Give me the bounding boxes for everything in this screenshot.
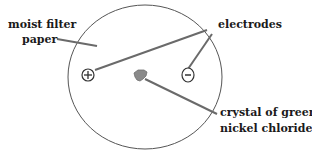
positive-electrode-leader-line bbox=[95, 30, 207, 70]
crystal-leader-line bbox=[145, 79, 217, 114]
filter-paper-label-line1: moist filter bbox=[8, 18, 76, 32]
filter-paper-label-line2: paper bbox=[22, 33, 57, 47]
filter-paper-leader-line bbox=[57, 39, 97, 46]
crystal-label-line1: crystal of green bbox=[220, 106, 312, 120]
electrodes-label: electrodes bbox=[218, 18, 282, 32]
positive-electrode bbox=[82, 69, 94, 81]
negative-electrode bbox=[182, 68, 194, 82]
negative-electrode-leader-line bbox=[188, 34, 212, 69]
crystal-label-line2: nickel chloride bbox=[220, 122, 312, 136]
